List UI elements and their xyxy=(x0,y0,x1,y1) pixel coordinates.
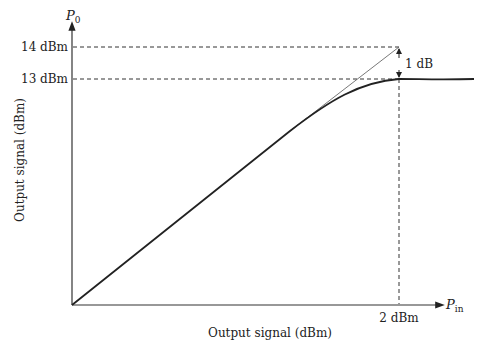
compression-chart: 14 dBm 13 dBm 2 dBm 1 dB Output signal (… xyxy=(0,0,483,352)
y-axis-symbol: P0 xyxy=(65,8,81,25)
x-axis-title: Output signal (dBm) xyxy=(208,326,332,340)
x-axis-symbol: Pin xyxy=(445,297,464,314)
delta-label: 1 dB xyxy=(405,57,433,71)
y-tick-13dbm: 13 dBm xyxy=(21,72,69,86)
compression-curve xyxy=(72,79,474,305)
x-tick-2dbm: 2 dBm xyxy=(379,311,419,325)
y-tick-14dbm: 14 dBm xyxy=(21,40,69,54)
y-axis-title: Output signal (dBm) xyxy=(13,98,27,222)
